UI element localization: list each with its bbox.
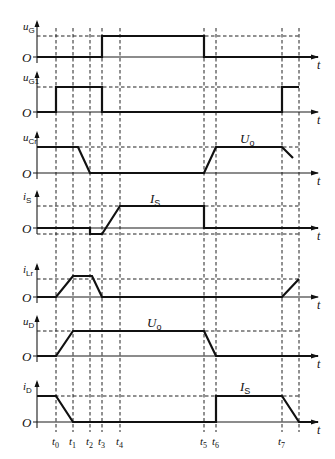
waveform <box>37 147 293 173</box>
waveform-rows: tOuGtOuG1tOuCrUotOiSIStOiLrtOuDUotOiDIS <box>22 20 321 437</box>
y-axis-arrow-icon <box>35 190 40 197</box>
waveform <box>37 396 318 422</box>
time-axis-label: t <box>317 113 321 127</box>
time-axis-label: t <box>317 58 321 72</box>
trace-uD: tOuDUo <box>22 315 321 371</box>
y-axis-arrow-icon <box>35 263 40 270</box>
trace-uG1: tOuG1 <box>22 71 321 127</box>
waveform <box>37 36 318 57</box>
trace-label-iLr: iLr <box>23 263 34 278</box>
waveform <box>37 87 299 112</box>
trace-iD: tOiDIS <box>22 379 321 437</box>
waveform <box>37 331 318 356</box>
time-axis-label: t <box>317 357 321 371</box>
time-mark-t5: t5 <box>200 435 207 450</box>
trace-iLr: tOiLr <box>22 263 321 312</box>
time-axis-label: t <box>317 174 321 188</box>
time-mark-t3: t3 <box>98 435 105 450</box>
y-axis-arrow-icon <box>35 20 40 27</box>
level-annotation: Uo <box>147 315 161 332</box>
time-mark-t7: t7 <box>278 435 285 450</box>
origin-label: O <box>22 290 32 305</box>
origin-label: O <box>22 105 32 120</box>
origin-label: O <box>22 415 32 430</box>
time-axis-label: t <box>317 298 321 312</box>
y-axis-arrow-icon <box>35 380 40 387</box>
origin-label: O <box>22 221 32 236</box>
time-axis-label: t <box>317 423 321 437</box>
timing-diagram: tOuGtOuG1tOuCrUotOiSIStOiLrtOuDUotOiDIS … <box>0 0 335 459</box>
trace-label-uD: uD <box>23 315 35 330</box>
time-mark-t1: t1 <box>69 435 76 450</box>
origin-label: O <box>22 349 32 364</box>
time-mark-t4: t4 <box>116 435 123 450</box>
time-mark-labels: t0t1t2t3t4t5t6t7 <box>52 435 285 450</box>
time-mark-t2: t2 <box>86 435 93 450</box>
origin-label: O <box>22 50 32 65</box>
trace-label-iD: iD <box>23 380 32 395</box>
waveform <box>37 206 318 234</box>
trace-uG: tOuG <box>22 20 321 72</box>
time-mark-t0: t0 <box>52 435 59 450</box>
origin-label: O <box>22 166 32 181</box>
y-axis-arrow-icon <box>35 315 40 322</box>
level-annotation: IS <box>239 379 250 396</box>
time-mark-t6: t6 <box>212 435 219 450</box>
time-mark-guides <box>56 28 299 432</box>
time-axis-label: t <box>317 229 321 243</box>
trace-label-uCr: uCr <box>23 131 37 146</box>
trace-label-iS: iS <box>23 190 31 205</box>
level-annotation: Uo <box>240 131 254 148</box>
trace-label-uG: uG <box>23 20 35 35</box>
trace-iS: tOiSIS <box>22 190 321 243</box>
level-annotation: IS <box>149 191 160 208</box>
trace-uCr: tOuCrUo <box>22 131 321 188</box>
